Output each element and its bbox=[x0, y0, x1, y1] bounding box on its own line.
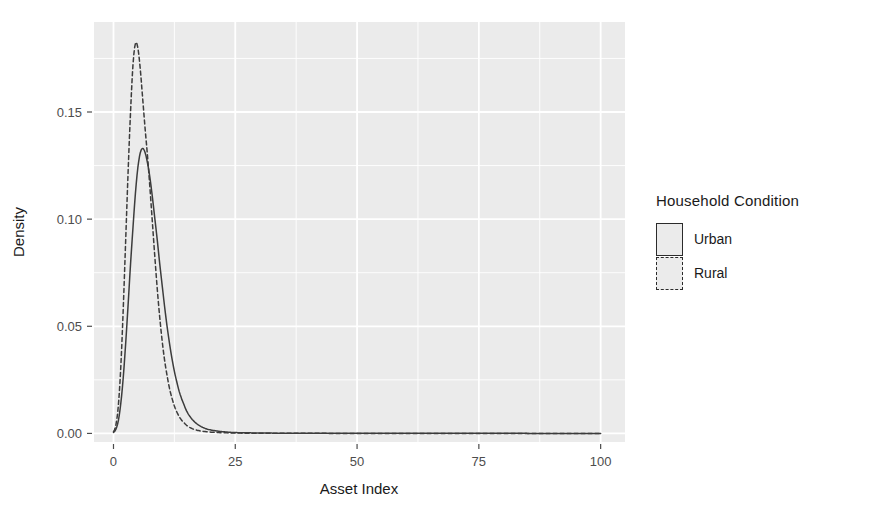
y-tick-label: 0.15 bbox=[57, 105, 82, 120]
x-tick-label: 100 bbox=[590, 454, 612, 469]
legend-item-urban[interactable]: Urban bbox=[656, 222, 732, 256]
legend-item-label: Urban bbox=[694, 231, 732, 247]
x-axis-tick-labels: 0255075100 bbox=[110, 454, 612, 469]
x-tick-label: 75 bbox=[472, 454, 486, 469]
legend-key-dashed-icon bbox=[656, 257, 683, 290]
y-tick-label: 0.00 bbox=[57, 426, 82, 441]
legend: Household Condition Urban Rural bbox=[640, 0, 881, 518]
legend-item-rural[interactable]: Rural bbox=[656, 256, 732, 290]
y-tick-label: 0.05 bbox=[57, 319, 82, 334]
y-axis-title: Density bbox=[10, 206, 27, 257]
x-tick-label: 25 bbox=[228, 454, 242, 469]
density-plot-svg: 0255075100 0.000.050.100.15 Asset Index … bbox=[0, 0, 640, 518]
plot-area: 0255075100 0.000.050.100.15 Asset Index … bbox=[0, 0, 640, 518]
legend-key-solid-icon bbox=[656, 223, 683, 256]
y-axis-ticks bbox=[87, 112, 92, 433]
legend-item-label: Rural bbox=[694, 265, 727, 281]
x-tick-label: 0 bbox=[110, 454, 117, 469]
legend-title: Household Condition bbox=[656, 192, 799, 209]
x-tick-label: 50 bbox=[350, 454, 364, 469]
x-axis-ticks bbox=[113, 444, 600, 449]
x-axis-title: Asset Index bbox=[320, 480, 399, 497]
legend-entries: Urban Rural bbox=[656, 222, 732, 290]
panel-background bbox=[94, 22, 625, 442]
y-axis-tick-labels: 0.000.050.100.15 bbox=[57, 105, 82, 441]
y-tick-label: 0.10 bbox=[57, 212, 82, 227]
chart-root: 0255075100 0.000.050.100.15 Asset Index … bbox=[0, 0, 881, 518]
